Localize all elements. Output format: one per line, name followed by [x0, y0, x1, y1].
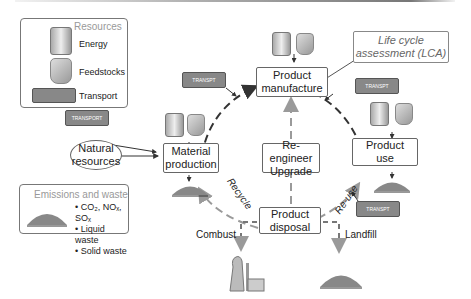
combust-label: Combust [196, 229, 236, 240]
transport-truck-icon [32, 88, 76, 103]
emissions-title: Emissions and waste [34, 189, 128, 200]
natural-resources-node: Natural resources [70, 140, 122, 170]
emissions-mound-icon [372, 176, 412, 194]
emissions-panel: Emissions and waste • CO₂, NOₓ, SOₓ • Li… [19, 184, 129, 234]
material-production-node: Material production [163, 143, 219, 173]
landfill-label: Landfill [345, 229, 377, 240]
resource-label-energy: Energy [79, 39, 108, 49]
power-plant-icon [226, 253, 266, 293]
product-manufacture-node: Product manufacture [256, 67, 328, 97]
energy-can-icon [165, 113, 184, 137]
energy-can-icon [272, 32, 291, 56]
energy-can-icon [370, 102, 389, 126]
landfill-mound-icon [318, 268, 364, 290]
feedstock-sack-icon [187, 114, 205, 136]
feedstock-sack-icon [50, 58, 72, 84]
transport-truck-icon: TRANSPT [355, 78, 399, 94]
emissions-mound-icon [25, 205, 69, 229]
emissions-mound-icon [170, 180, 210, 198]
product-disposal-node: Product disposal [259, 207, 321, 234]
resources-title: Resources [74, 21, 122, 32]
emission-liquid: Liquid waste [75, 224, 105, 245]
transport-truck-icon: TRANSPT [356, 201, 400, 217]
resource-label-transport: Transport [79, 91, 117, 101]
emissions-list: • CO₂, NOₓ, SOₓ • Liquid waste • Solid w… [75, 202, 128, 257]
feedstock-sack-icon [395, 103, 413, 125]
resource-label-feedstocks: Feedstocks [79, 67, 125, 77]
reengineer-node: Re-engineer Upgrade [262, 143, 320, 173]
resources-panel: Resources Energy Feedstocks Transport [20, 18, 128, 108]
emission-solid: Solid waste [81, 246, 127, 256]
emission-gases: CO₂, NOₓ, SOₓ [75, 202, 122, 223]
transport-truck-icon: TRANSPORT [65, 110, 109, 126]
product-use-node: Product use [352, 138, 418, 166]
feedstock-sack-icon [296, 33, 314, 55]
lca-node: Life cycle assessment (LCA) [353, 31, 449, 63]
energy-can-icon [50, 27, 72, 55]
transport-truck-icon: TRANSPT [182, 72, 226, 88]
